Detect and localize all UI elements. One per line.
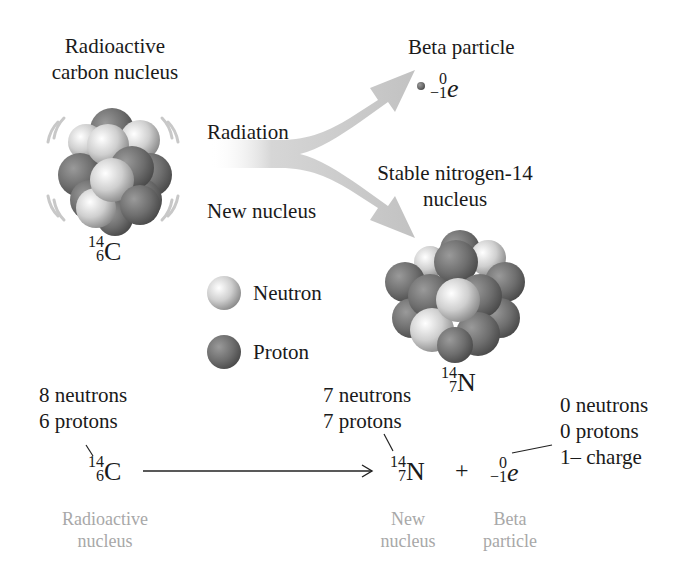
beta-composition-note: 0 neutrons 0 protons 1– charge (560, 392, 648, 470)
radiation-label: Radiation (207, 119, 289, 145)
nitrogen-symbol-top: 147N (441, 366, 476, 396)
equation-carbon-symbol: 146C (88, 455, 121, 485)
legend-neutron-label: Neutron (253, 280, 322, 306)
element-symbol: N (406, 459, 425, 485)
charge-number: −1 (430, 86, 447, 100)
neutron-legend-icon (207, 276, 241, 310)
new-nucleus-label: New nucleus (207, 198, 316, 224)
carbon-nucleus-title: Radioactive carbon nucleus (40, 33, 190, 85)
element-symbol: C (104, 459, 121, 485)
note-line: 0 neutrons (560, 392, 648, 418)
note-line: 6 protons (39, 408, 127, 434)
note-line: 1– charge (560, 444, 648, 470)
charge-number: −1 (490, 470, 507, 484)
element-symbol: C (104, 239, 121, 265)
note-line: 7 neutrons (323, 382, 411, 408)
element-symbol: N (457, 370, 476, 396)
note-line: 8 neutrons (39, 382, 127, 408)
title-line-1: Stable nitrogen-14 (365, 160, 545, 186)
note-line: 0 protons (560, 418, 648, 444)
plus-sign: + (455, 457, 469, 484)
atomic-number: 6 (88, 249, 104, 263)
carbon-nucleus-icon (58, 108, 172, 236)
equation-beta-symbol: 0−1e (490, 456, 519, 486)
note-line: 7 protons (323, 408, 411, 434)
proton-legend-icon (207, 335, 241, 369)
caption-beta-particle: Beta particle (470, 508, 550, 552)
title-line-2: nucleus (365, 186, 545, 212)
nitrogen-nucleus-icon (385, 230, 525, 363)
beta-particle-title: Beta particle (408, 34, 515, 60)
beta-particle-icon (417, 82, 425, 90)
carbon-symbol-top: 146C (88, 235, 121, 265)
caption-line: Radioactive (40, 508, 170, 530)
title-line-1: Radioactive (40, 33, 190, 59)
caption-radioactive-nucleus: Radioactive nucleus (40, 508, 170, 552)
legend-proton-label: Proton (253, 339, 309, 365)
caption-line: New (368, 508, 448, 530)
element-symbol: e (507, 460, 519, 486)
caption-line: nucleus (40, 530, 170, 552)
atomic-number: 7 (441, 380, 457, 394)
beta-leader-line (512, 445, 552, 453)
title-line-2: carbon nucleus (40, 59, 190, 85)
element-symbol: e (447, 76, 459, 102)
reaction-arrow-icon (143, 465, 372, 477)
caption-new-nucleus: New nucleus (368, 508, 448, 552)
equation-nitrogen-symbol: 147N (390, 455, 425, 485)
beta-symbol-top: 0−1e (430, 72, 459, 102)
atomic-number: 7 (390, 469, 406, 483)
caption-line: particle (470, 530, 550, 552)
nitrogen-leader-line (384, 434, 393, 451)
carbon-composition-note: 8 neutrons 6 protons (39, 382, 127, 434)
caption-line: nucleus (368, 530, 448, 552)
atomic-number: 6 (88, 469, 104, 483)
nitrogen-composition-note: 7 neutrons 7 protons (323, 382, 411, 434)
caption-line: Beta (470, 508, 550, 530)
nitrogen-nucleus-title: Stable nitrogen-14 nucleus (365, 160, 545, 212)
